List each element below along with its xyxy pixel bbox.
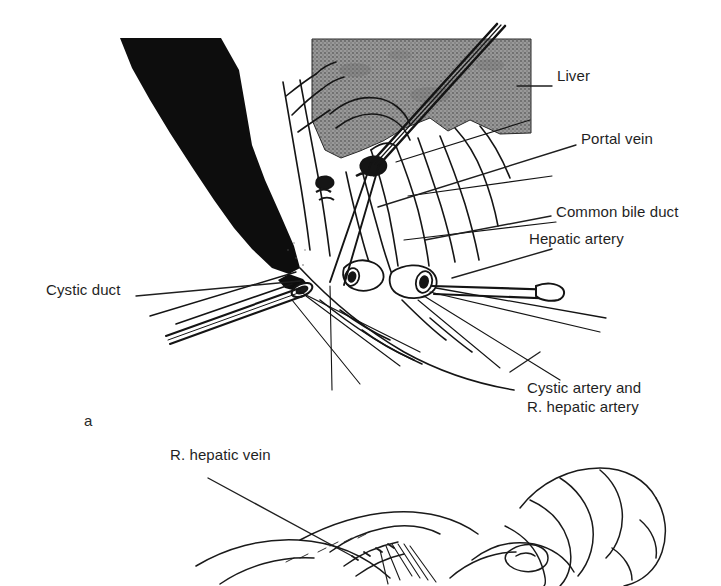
label-cystic-artery-line-1: Cystic artery and <box>527 378 641 397</box>
clipped-vessel-stumps <box>290 156 437 300</box>
leader-cystic-duct <box>136 281 300 296</box>
label-common-bile-duct: Common bile duct <box>556 202 679 221</box>
panel-letter-a: a <box>84 412 92 429</box>
leader-cystic-artery <box>510 352 540 372</box>
retractor-blade <box>120 38 310 292</box>
label-liver: Liver <box>557 66 590 85</box>
figure-container: Liver Portal vein Common bile duct Hepat… <box>0 0 721 586</box>
label-hepatic-artery: Hepatic artery <box>529 229 624 248</box>
label-r-hepatic-vein: R. hepatic vein <box>170 445 271 464</box>
label-cystic-duct: Cystic duct <box>46 280 120 299</box>
label-r-hepatic-artery-line-2: R. hepatic artery <box>527 397 639 416</box>
panel-b-illustration <box>196 468 665 586</box>
leader-hepatic-artery <box>452 249 552 278</box>
label-portal-vein: Portal vein <box>581 129 653 148</box>
liver-mass <box>312 39 531 158</box>
